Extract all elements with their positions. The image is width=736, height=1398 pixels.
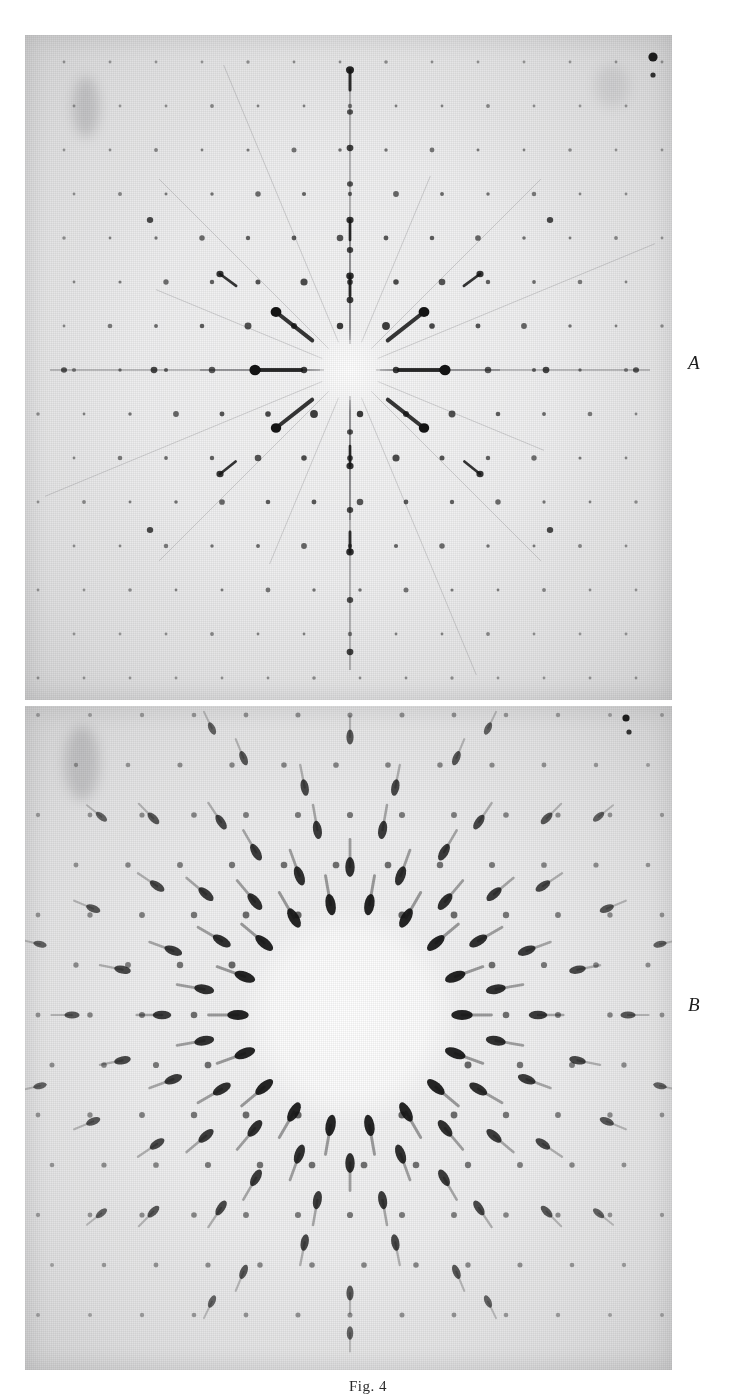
panel-b-photograph [25, 706, 672, 1370]
figure-plate: A B Fig. 4 [0, 0, 736, 1398]
figure-caption: Fig. 4 [0, 1378, 736, 1395]
panel-b-diffraction-pattern [25, 706, 672, 1370]
panel-a-diffraction-pattern [25, 35, 672, 700]
panel-b-label: B [688, 994, 700, 1016]
panel-a-label: A [688, 352, 700, 374]
panel-a-photograph [25, 35, 672, 700]
